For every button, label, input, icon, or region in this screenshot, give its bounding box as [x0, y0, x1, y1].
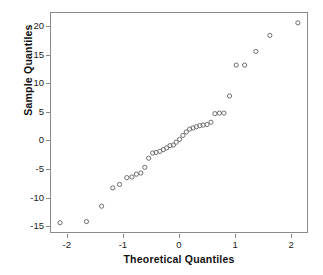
- x-tick-label: 0: [159, 240, 199, 250]
- x-axis-title: Theoretical Quantiles: [50, 253, 308, 265]
- y-tick-mark: [46, 169, 50, 170]
- plot-frame: [50, 12, 308, 233]
- x-tick-mark: [67, 234, 68, 238]
- x-tick-mark: [123, 234, 124, 238]
- y-tick-label: -15: [4, 221, 44, 231]
- x-tick-mark: [179, 234, 180, 238]
- x-tick-label: 2: [271, 240, 311, 250]
- y-tick-label: -10: [4, 193, 44, 203]
- y-axis-title: Sample Quantiles: [22, 0, 34, 140]
- x-tick-label: 1: [215, 240, 255, 250]
- x-tick-mark: [235, 234, 236, 238]
- x-tick-mark: [291, 234, 292, 238]
- y-tick-mark: [46, 83, 50, 84]
- y-tick-label: -5: [4, 164, 44, 174]
- y-tick-mark: [46, 198, 50, 199]
- y-tick-mark: [46, 26, 50, 27]
- x-tick-label: -2: [47, 240, 87, 250]
- y-tick-mark: [46, 140, 50, 141]
- y-tick-mark: [46, 112, 50, 113]
- y-tick-mark: [46, 55, 50, 56]
- y-tick-mark: [46, 226, 50, 227]
- x-tick-label: -1: [103, 240, 143, 250]
- qq-plot: 20151050-5-10-15 -2-1012 Theoretical Qua…: [0, 0, 323, 275]
